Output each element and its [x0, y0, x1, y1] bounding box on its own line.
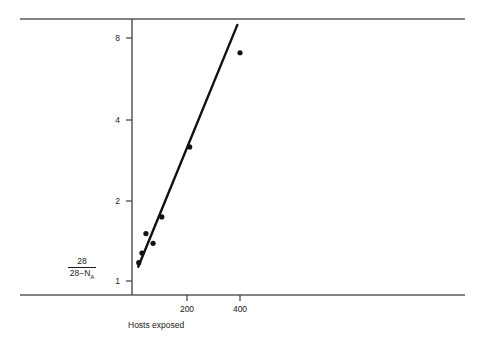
- denominator-subscript: A: [90, 273, 94, 279]
- data-point: [136, 260, 141, 265]
- figure-container: 1 2 4 8 200 400 Hosts exposed 28 28−NA: [0, 0, 486, 339]
- y-tick-label-1: 1: [104, 277, 120, 286]
- data-point: [159, 214, 164, 219]
- x-tick-label-200: 200: [167, 305, 207, 314]
- fraction-numerator: 28: [68, 257, 97, 268]
- data-point: [237, 50, 242, 55]
- x-tick-label-400: 400: [220, 305, 260, 314]
- y-tick-label-4: 4: [104, 116, 120, 125]
- data-point: [139, 250, 144, 255]
- x-axis-title: Hosts exposed: [128, 321, 184, 330]
- y-tick-label-2: 2: [104, 197, 120, 206]
- fraction-denominator: 28−NA: [68, 268, 97, 280]
- y-tick-label-8: 8: [104, 34, 120, 43]
- data-point: [187, 144, 192, 149]
- y-axis-title: 28 28−NA: [58, 257, 106, 279]
- y-axis-fraction: 28 28−NA: [68, 257, 97, 279]
- y-axis-ticks: [126, 38, 132, 281]
- data-point: [143, 231, 148, 236]
- x-axis-ticks: [187, 295, 240, 301]
- plot-canvas: [0, 0, 486, 339]
- data-point: [150, 241, 155, 246]
- denominator-lead: 28: [70, 268, 79, 278]
